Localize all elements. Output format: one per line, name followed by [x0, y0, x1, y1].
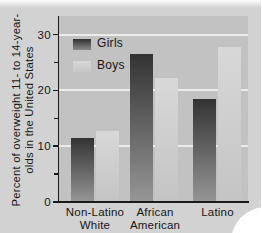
bar-boys-non-latino-white [96, 131, 119, 202]
bar-girls-african-american [130, 54, 153, 202]
boys-legend-label: Boys [97, 58, 125, 72]
category-label-line: American [95, 219, 215, 232]
y-tick-label-20: 20 [22, 83, 51, 97]
y-tick-30 [53, 34, 58, 36]
bar-girls-latino [193, 99, 216, 202]
y-minor-tick-5 [54, 173, 58, 175]
y-minor-tick-15 [54, 118, 58, 120]
bar-boys-african-american [155, 78, 178, 202]
y-tick-label-30: 30 [22, 28, 51, 42]
y-tick-label-10: 10 [22, 139, 51, 153]
scan-edge-highlight [0, 0, 261, 8]
girls-legend-swatch [73, 39, 91, 50]
y-tick-0 [53, 201, 58, 203]
boys-legend-swatch [73, 61, 91, 72]
girls-legend-label: Girls [97, 36, 123, 50]
y-tick-10 [53, 145, 58, 147]
y-tick-20 [53, 90, 58, 92]
category-label-latino: Latino [158, 206, 262, 219]
bar-girls-non-latino-white [71, 138, 94, 202]
gridline-30 [59, 34, 248, 36]
x-axis-line [53, 201, 249, 203]
bar-chart-figure: Percent of overweight 11- to 14-year- ol… [0, 0, 261, 233]
category-label-line: Latino [158, 206, 262, 219]
y-minor-tick-25 [54, 62, 58, 64]
bar-boys-latino [218, 47, 241, 202]
